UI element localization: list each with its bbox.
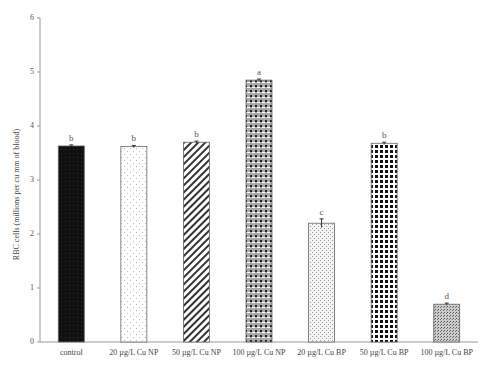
significance-letter: a [257, 67, 261, 77]
y-tick-label: 0 [20, 337, 34, 346]
x-tick-label: control [60, 348, 83, 357]
significance-letter: b [69, 133, 74, 143]
bar [434, 304, 460, 342]
x-tick-label: 50 µg/L Cu NP [172, 348, 221, 357]
significance-letter: d [444, 291, 449, 301]
bar [58, 146, 84, 342]
significance-letter: c [320, 207, 324, 217]
x-tick-label: 20 µg/L Cu BP [297, 348, 346, 357]
significance-letter: b [382, 130, 387, 140]
y-tick-label: 4 [20, 121, 34, 130]
y-tick-label: 6 [20, 13, 34, 22]
bar [371, 143, 397, 342]
x-tick-label: 20 µg/L Cu NP [109, 348, 158, 357]
plot-area [0, 0, 482, 369]
y-tick-label: 2 [20, 229, 34, 238]
bar [121, 147, 147, 342]
bars [58, 79, 459, 342]
y-tick-label: 3 [20, 175, 34, 184]
bar [246, 80, 272, 342]
rbc-bar-chart: RBC cells (millions per cu mm of blood) … [0, 0, 482, 369]
x-tick-label: 50 µg/L Cu BP [360, 348, 409, 357]
y-tick-label: 1 [20, 283, 34, 292]
bar [183, 142, 209, 342]
x-tick-label: 100 µg/L Cu BP [420, 348, 473, 357]
x-tick-label: 100 µg/L Cu NP [233, 348, 286, 357]
y-tick-label: 5 [20, 67, 34, 76]
bar [309, 223, 335, 342]
significance-letter: b [132, 133, 137, 143]
significance-letter: b [194, 129, 199, 139]
